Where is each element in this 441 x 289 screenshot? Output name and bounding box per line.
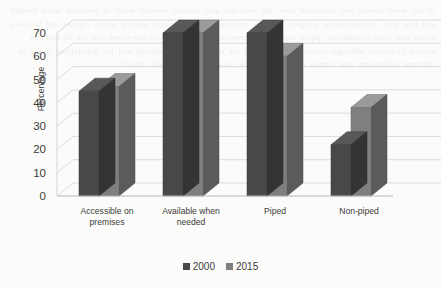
legend-label: 2000 <box>193 261 215 272</box>
chart-legend: 20002015 <box>0 261 441 272</box>
chart-bars <box>79 20 387 196</box>
legend-item[interactable]: 2015 <box>226 261 258 272</box>
x-tick-label: Non-piped <box>305 206 413 217</box>
y-tick-label: 0 <box>20 190 46 202</box>
bar-chart-3d <box>0 0 441 289</box>
y-tick-label: 70 <box>20 27 46 39</box>
y-axis-label: Percentage <box>36 51 46 127</box>
legend-swatch-icon <box>183 263 190 270</box>
legend-swatch-icon <box>226 263 233 270</box>
y-tick-label: 10 <box>20 167 46 179</box>
y-tick-label: 20 <box>20 143 46 155</box>
legend-item[interactable]: 2000 <box>183 261 215 272</box>
legend-label: 2015 <box>236 261 258 272</box>
y-axis-ticks: 010203040506070 <box>18 0 46 289</box>
